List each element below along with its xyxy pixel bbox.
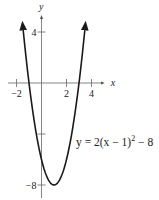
labels: xy−2244−8y = 2(x − 1)2 − 8 <box>11 1 153 191</box>
x-tick-label: 4 <box>89 88 94 99</box>
x-tick-label: 2 <box>64 88 69 99</box>
series <box>23 26 86 185</box>
y-tick-label: −8 <box>26 180 37 191</box>
ticks <box>17 32 92 185</box>
parabola-chart: xy−2244−8y = 2(x − 1)2 − 8 <box>0 0 159 200</box>
axes <box>8 17 103 198</box>
y-axis-label: y <box>38 1 44 12</box>
parabola-curve <box>23 26 86 185</box>
y-tick-label: 4 <box>32 27 37 38</box>
x-tick-label: −2 <box>11 88 22 99</box>
x-axis-label: x <box>110 77 116 88</box>
equation-label: y = 2(x − 1)2 − 8 <box>76 134 153 149</box>
